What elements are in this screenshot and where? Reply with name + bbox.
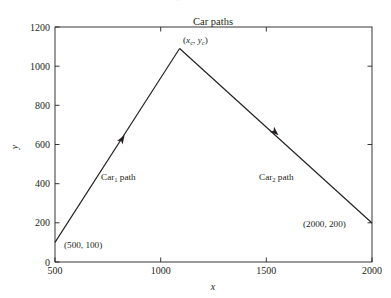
car1-path-line (55, 49, 180, 243)
svg-text:Car2 path: Car2 path (259, 172, 294, 183)
x-tick-label: 1500 (256, 265, 276, 276)
x-tick-label: 1000 (151, 265, 171, 276)
start-point-label: (500, 100) (64, 240, 102, 250)
y-tick-label: 200 (35, 217, 50, 228)
x-axis-top-ticks (161, 27, 267, 32)
y-tick-label: 600 (35, 139, 50, 150)
svg-text:Car1 path: Car1 path (101, 172, 136, 183)
x-tick-labels: 500 1000 1500 2000 (48, 265, 383, 276)
peak-point-label: (xc, yc) (183, 35, 208, 46)
car2-path-line (180, 49, 372, 224)
y-tick-label: 800 (35, 100, 50, 111)
car-paths-chart: 0 200 400 600 800 1000 1200 500 1000 150… (0, 0, 391, 298)
x-axis-title: x (210, 281, 216, 292)
chart-title: Car paths (193, 16, 233, 27)
car2-name: Car (259, 172, 272, 182)
end-point-label: (2000, 200) (303, 219, 346, 229)
y-axis-ticks (55, 27, 60, 262)
y-axis-title: y (9, 144, 20, 150)
y-tick-label: 400 (35, 178, 50, 189)
car2-suffix: path (276, 172, 295, 182)
x-axis-ticks (55, 258, 372, 263)
svg-text:(xc, yc): (xc, yc) (183, 35, 208, 46)
y-tick-label: 1200 (30, 22, 50, 33)
car1-name: Car (101, 172, 114, 182)
y-axis-right-ticks (368, 66, 373, 223)
car1-suffix: path (118, 172, 137, 182)
car2-path-label: Car2 path (259, 172, 294, 183)
x-tick-label: 500 (48, 265, 63, 276)
y-tick-label: 1000 (30, 61, 50, 72)
car2-direction-arrow-icon (270, 127, 281, 138)
car1-path-label: Car1 path (101, 172, 136, 183)
figure-container: Figure continued (0, 0, 391, 298)
y-tick-labels: 0 200 400 600 800 1000 1200 (30, 22, 50, 268)
x-tick-label: 2000 (362, 265, 382, 276)
peak-close-paren: ) (205, 35, 208, 45)
cropped-header-text: Figure continued (128, 0, 268, 1)
